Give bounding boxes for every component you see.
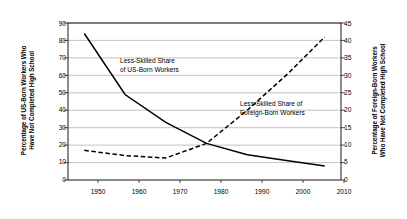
- annotation-us-born: Less-Skilled Share of US-Born Workers: [120, 57, 179, 74]
- series-line-foreign-born: [84, 37, 324, 158]
- y-left-tick-marks: [64, 23, 68, 180]
- annotation-us-born-line2: of US-Born Workers: [120, 66, 179, 73]
- annotation-foreign-born: Less-Skilled Share of Foreign-Born Worke…: [240, 100, 305, 117]
- y-right-tick-marks: [341, 23, 345, 180]
- annotation-foreign-born-line1: Less-Skilled Share of: [240, 100, 302, 107]
- annotation-us-born-line1: Less-Skilled Share: [120, 57, 175, 64]
- annotation-foreign-born-line2: Foreign-Born Workers: [240, 109, 305, 116]
- chart-figure: Percentage of US-Born Workers Who Have N…: [0, 0, 407, 219]
- plot-area: [0, 0, 407, 219]
